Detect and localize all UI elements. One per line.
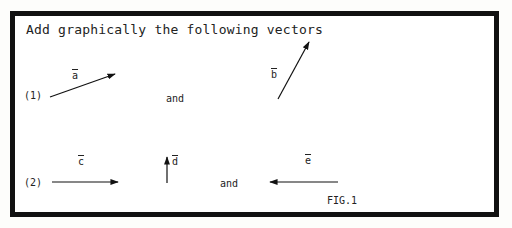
vector-e-label: e	[305, 155, 311, 166]
problem-2-and: and	[220, 178, 238, 189]
figure-frame	[10, 11, 499, 217]
problem-1-and: and	[166, 93, 184, 104]
vector-d-label: d	[172, 156, 178, 167]
problem-1-number: (1)	[24, 90, 42, 101]
problem-2-number: (2)	[24, 177, 42, 188]
figure-caption: FIG.1	[327, 195, 357, 206]
instruction-title: Add graphically the following vectors	[26, 22, 323, 37]
vector-b-label: b	[271, 69, 277, 80]
vector-a-label: a	[72, 70, 78, 81]
vector-c-label: c	[78, 156, 84, 167]
